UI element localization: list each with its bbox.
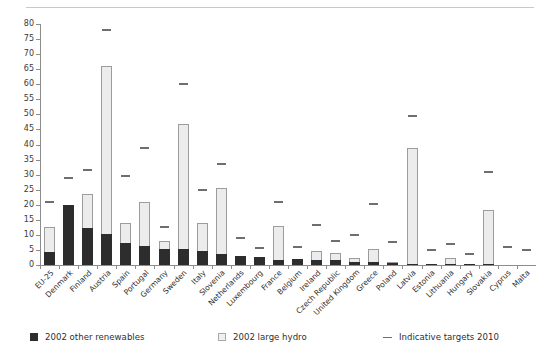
target-marker [236,237,245,239]
target-marker [198,189,207,191]
bar-column [235,256,246,265]
y-axis-tick-label: 40 [24,141,34,149]
x-axis-category-labels: EU-25DenmarkFinlandAustriaSpainPortugalG… [40,266,540,330]
target-marker [503,246,512,248]
bar-column [368,249,379,265]
legend-label-large-hydro: 2002 large hydro [233,332,307,342]
bar-segment-other-renewables [387,263,398,265]
bar-column [120,223,131,265]
bar-column [139,202,150,265]
bar-segment-large-hydro [216,188,227,254]
bar-segment-other-renewables [407,264,418,265]
bar-segment-large-hydro [82,194,93,228]
y-axis-tick-label: 70 [24,50,34,58]
bar-column [445,258,456,265]
y-axis-tick-label: 60 [24,80,34,88]
y-axis-tick [36,175,40,176]
target-marker [274,201,283,203]
target-marker [293,246,302,248]
bar-segment-other-renewables [368,262,379,265]
y-axis-tick-label: 20 [24,201,34,209]
y-axis-tick-label: 50 [24,110,34,118]
target-marker [408,115,417,117]
bar-column [63,205,74,265]
target-marker [83,169,92,171]
y-axis-tick [36,235,40,236]
y-axis-tick-label: 45 [24,125,34,133]
bar-segment-other-renewables [464,264,475,265]
y-axis-tick [36,220,40,221]
bar-segment-other-renewables [273,260,284,265]
bar-column [426,264,437,265]
bar-segment-other-renewables [311,260,322,265]
bar-segment-large-hydro [368,249,379,262]
bar-segment-large-hydro [197,223,208,251]
bar-segment-large-hydro [120,223,131,243]
bar-column [216,188,227,265]
target-marker [255,247,264,249]
target-marker [217,163,226,165]
target-marker [140,147,149,149]
bar-column [101,66,112,265]
bar-column [311,251,322,265]
bar-segment-large-hydro [273,226,284,259]
bar-column [178,124,189,265]
bar-column [387,262,398,265]
bar-segment-large-hydro [178,124,189,249]
target-marker [522,249,531,251]
y-axis-tick [36,250,40,251]
bar-column [159,241,170,265]
y-axis-tick-label: 10 [24,231,34,239]
bar-column [464,264,475,265]
bar-column [407,148,418,265]
bar-segment-other-renewables [235,256,246,265]
target-marker [484,171,493,173]
bar-segment-other-renewables [330,260,341,265]
legend-label-indicative-targets: Indicative targets 2010 [399,332,499,342]
y-axis-tick [36,160,40,161]
bar-segment-other-renewables [445,264,456,265]
bar-column [254,257,265,265]
bar-segment-other-renewables [216,254,227,265]
bar-segment-other-renewables [254,257,265,265]
y-axis-tick [36,205,40,206]
y-axis-tick [36,190,40,191]
y-axis-tick-label: 0 [29,261,34,269]
bar-segment-large-hydro [407,148,418,264]
y-axis-tick [36,84,40,85]
target-marker [331,240,340,242]
target-marker [446,243,455,245]
bar-segment-large-hydro [139,202,150,245]
bar-segment-other-renewables [483,264,494,265]
bar-column [273,226,284,265]
target-marker [45,201,54,203]
y-axis-tick [36,54,40,55]
bar-segment-other-renewables [120,243,131,265]
bar-segment-other-renewables [349,262,360,265]
y-axis-tick-label: 35 [24,156,34,164]
bar-segment-other-renewables [44,252,55,265]
target-marker [102,29,111,31]
target-marker [388,241,397,243]
target-marker [121,175,130,177]
y-axis-tick-label: 65 [24,65,34,73]
target-marker [465,253,474,255]
bar-segment-other-renewables [82,228,93,265]
legend-label-other-renewables: 2002 other renewables [45,332,145,342]
light-square-icon [218,333,226,341]
bar-segment-large-hydro [311,251,322,261]
bar-segment-large-hydro [101,66,112,234]
bar-segment-large-hydro [44,227,55,252]
bar-segment-other-renewables [426,264,437,265]
bar-segment-other-renewables [292,259,303,265]
target-marker [179,83,188,85]
y-axis-tick [36,39,40,40]
bar-segment-other-renewables [197,251,208,265]
top-rule [26,7,534,8]
y-axis-tick [36,24,40,25]
bar-segment-other-renewables [63,205,74,265]
y-axis-tick [36,99,40,100]
target-marker [369,203,378,205]
legend-item-indicative-targets: Indicative targets 2010 [383,330,499,344]
chart-plot-area [40,24,536,265]
